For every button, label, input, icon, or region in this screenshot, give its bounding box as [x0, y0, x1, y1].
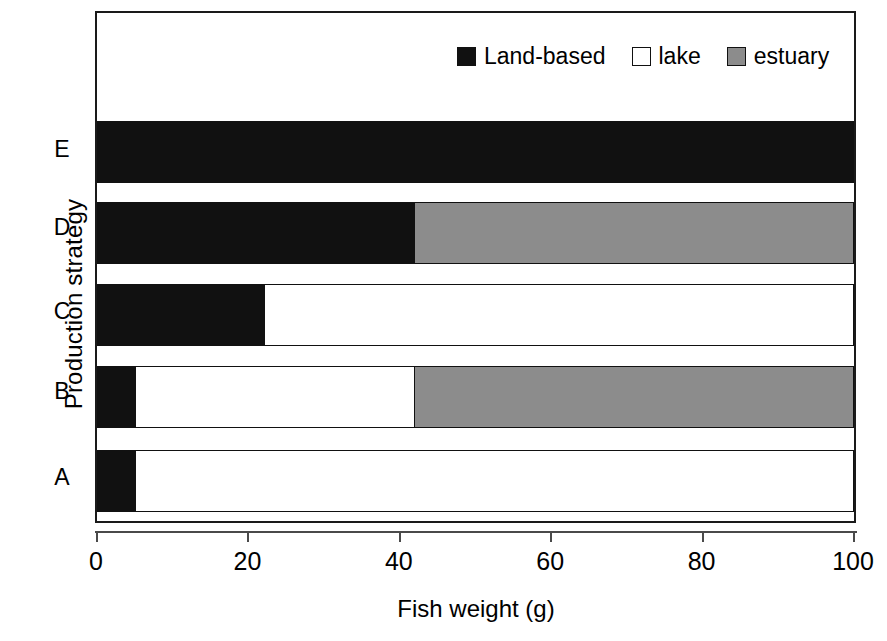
x-tick-60: [550, 531, 552, 542]
bar-row-e: [97, 121, 854, 183]
legend-swatch-black-icon: [457, 47, 476, 66]
bar-segment-c-land-based: [97, 284, 264, 346]
stacked-bar-chart: Production strategy E D C B A Land-based…: [0, 0, 887, 641]
bar-segment-c-lake: [264, 284, 854, 346]
bar-row-a: [97, 450, 854, 512]
legend: Land-based lake estuary: [457, 43, 829, 70]
x-tick-label-20: 20: [212, 547, 282, 576]
legend-item-land-based: Land-based: [457, 43, 606, 70]
legend-swatch-white-icon: [632, 47, 651, 66]
y-tick-label-c: C: [42, 298, 82, 325]
x-tick-20: [247, 531, 249, 542]
bar-segment-d-land-based: [97, 202, 415, 264]
bar-row-d: [97, 202, 854, 264]
y-tick-label-a: A: [42, 464, 82, 491]
bar-segment-b-land-based: [97, 366, 135, 428]
plot-inner: Land-based lake estuary: [97, 13, 854, 521]
bar-segment-a-land-based: [97, 450, 135, 512]
legend-label-lake: lake: [659, 43, 701, 70]
bar-row-c: [97, 284, 854, 346]
x-tick-80: [702, 531, 704, 542]
legend-label-land-based: Land-based: [484, 43, 606, 70]
bar-row-b: [97, 366, 854, 428]
x-tick-label-0: 0: [61, 547, 131, 576]
bar-segment-b-lake: [135, 366, 415, 428]
plot-area: Land-based lake estuary: [95, 11, 856, 523]
y-tick-label-e: E: [42, 136, 82, 163]
bar-segment-d-estuary: [415, 202, 854, 264]
x-axis-line: [95, 531, 857, 533]
x-tick-label-80: 80: [667, 547, 737, 576]
bar-segment-a-lake: [135, 450, 854, 512]
x-tick-100: [853, 531, 855, 542]
x-tick-label-100: 100: [818, 547, 887, 576]
legend-swatch-gray-icon: [727, 47, 746, 66]
legend-label-estuary: estuary: [754, 43, 829, 70]
x-tick-40: [399, 531, 401, 542]
y-tick-label-b: B: [42, 378, 82, 405]
x-tick-label-40: 40: [364, 547, 434, 576]
y-tick-label-d: D: [42, 214, 82, 241]
bar-segment-e-land-based: [97, 121, 854, 183]
bar-segment-b-estuary: [415, 366, 854, 428]
x-tick-label-60: 60: [515, 547, 585, 576]
legend-item-lake: lake: [632, 43, 701, 70]
legend-item-estuary: estuary: [727, 43, 829, 70]
x-tick-0: [96, 531, 98, 542]
x-axis-title: Fish weight (g): [96, 595, 856, 623]
